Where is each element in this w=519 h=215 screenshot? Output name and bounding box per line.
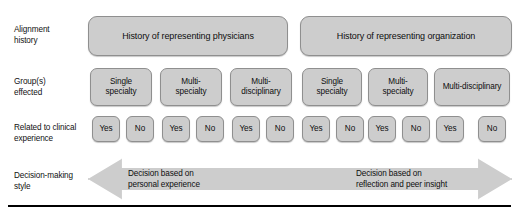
yes-no-box-2: Yes xyxy=(162,116,190,142)
row-label-groups-effected: Group(s) effected xyxy=(14,76,92,98)
history-box-1: History of representing organization xyxy=(300,16,512,56)
yes-no-box-10: Yes xyxy=(436,116,464,142)
row-label-decision-making-style: Decision-making style xyxy=(14,170,92,192)
yes-no-box-11: No xyxy=(478,116,506,142)
group-box-5: Multi-disciplinary xyxy=(434,68,510,106)
yes-no-box-0: Yes xyxy=(92,116,120,142)
arrow-label-reflection-peer-insight: Decision based on reflection and peer in… xyxy=(356,169,447,190)
yes-no-box-6: Yes xyxy=(302,116,330,142)
arrow-label-personal-experience: Decision based on personal experience xyxy=(128,169,200,190)
yes-no-box-7: No xyxy=(336,116,364,142)
diagram-canvas: Alignment history Group(s) effected Rela… xyxy=(0,0,519,215)
row-label-related-to-clinical-experience: Related to clinical experience xyxy=(14,122,92,144)
yes-no-box-8: Yes xyxy=(368,116,396,142)
history-box-0: History of representing physicians xyxy=(88,16,288,56)
decision-style-arrow: Decision based on personal experience De… xyxy=(88,158,512,200)
yes-no-box-1: No xyxy=(126,116,154,142)
yes-no-box-9: No xyxy=(402,116,430,142)
yes-no-box-4: Yes xyxy=(232,116,260,142)
group-box-2: Multi- disciplinary xyxy=(230,68,292,106)
yes-no-box-3: No xyxy=(196,116,224,142)
row-label-alignment-history: Alignment history xyxy=(14,24,92,46)
bottom-divider xyxy=(8,205,511,207)
group-box-0: Single specialty xyxy=(90,68,152,106)
group-box-1: Multi- specialty xyxy=(160,68,222,106)
group-box-4: Multi- specialty xyxy=(368,68,428,106)
group-box-3: Single specialty xyxy=(302,68,362,106)
yes-no-box-5: No xyxy=(266,116,294,142)
